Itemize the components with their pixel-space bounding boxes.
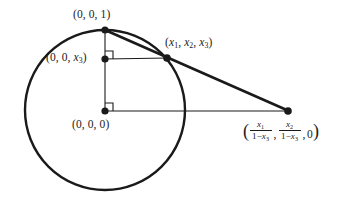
label-point-close: ): [209, 36, 213, 48]
label-projected-point: (x11−x3,x21−x3,0): [243, 120, 319, 141]
label-proj-close: ): [313, 122, 319, 140]
label-proj-frac2-den-one: 1−: [281, 131, 291, 141]
label-sphere-point: (x1, x2, x3): [165, 36, 212, 48]
point-projected-point: [284, 107, 292, 115]
label-proj-frac1-den-sub: 3: [266, 135, 269, 141]
label-origin-close: ): [105, 118, 109, 130]
label-proj-frac1-num-sub: 1: [261, 124, 264, 130]
stereographic-projection-figure: (0, 0, 1) (0, 0, x3) (x1, x2, x3) (0, 0,…: [0, 0, 349, 208]
label-height-x3: (0, 0, x3): [46, 51, 87, 63]
point-height-x3: [101, 55, 108, 62]
label-mid-close: ): [83, 51, 87, 63]
label-proj-fraction-2: x21−x3: [279, 120, 301, 141]
label-proj-fraction-1: x11−x3: [250, 120, 272, 141]
label-proj-frac2-num-sub: 2: [290, 124, 293, 130]
label-proj-comma-a: ,: [272, 128, 278, 140]
label-proj-open: (: [243, 122, 249, 140]
label-origin: (0, 0, 0): [72, 118, 109, 130]
diagram-canvas: [0, 0, 349, 208]
label-north-close: ): [106, 8, 110, 20]
point-north-pole: [101, 26, 108, 33]
label-north-pole: (0, 0, 1): [73, 8, 110, 20]
label-proj-frac2-den-sub: 3: [295, 135, 298, 141]
point-origin: [101, 107, 108, 114]
horizontal-upper-line: [105, 58, 168, 59]
label-proj-frac1-den-one: 1−: [252, 131, 262, 141]
point-sphere-point: [163, 54, 171, 62]
